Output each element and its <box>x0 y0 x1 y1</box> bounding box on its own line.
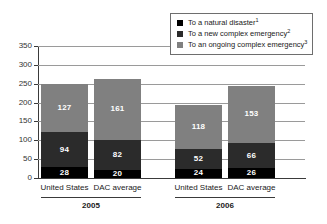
bar-segment: 20 <box>94 170 141 178</box>
bar-segment: 127 <box>41 84 88 132</box>
bar-2006-dac-average: 1536626 <box>228 86 275 178</box>
group-label-2005: 2005 <box>41 201 141 210</box>
legend-swatch-icon <box>177 42 183 48</box>
bar-segment: 66 <box>228 143 275 168</box>
bar-segment: 161 <box>94 79 141 140</box>
y-axis-tick <box>34 65 38 66</box>
legend-item[interactable]: To a natural disaster1 <box>177 18 307 28</box>
bar-segment-value-label: 66 <box>247 152 256 160</box>
legend-swatch-icon <box>177 31 183 37</box>
legend-footnote-marker: 2 <box>287 28 290 34</box>
legend: To a natural disaster1To a new complex e… <box>170 13 313 55</box>
bar-segment-value-label: 24 <box>194 169 203 177</box>
bar-segment-value-label: 94 <box>60 146 69 154</box>
bar-segment-value-label: 26 <box>247 169 256 177</box>
group-separator-rule <box>41 197 141 198</box>
x-axis-line <box>38 178 306 179</box>
y-axis-tick-label: 50 <box>23 155 32 163</box>
y-axis-tick-label: 200 <box>19 99 32 107</box>
legend-swatch-icon <box>177 20 183 26</box>
bar-segment: 153 <box>228 86 275 144</box>
y-axis-tick <box>34 46 38 47</box>
bar-segment-value-label: 20 <box>113 170 122 178</box>
bar-segment-value-label: 118 <box>192 123 206 131</box>
legend-footnote-marker: 3 <box>304 39 307 45</box>
bar-segment-value-label: 127 <box>58 104 72 112</box>
bar-segment: 82 <box>94 140 141 171</box>
bar-segment-value-label: 52 <box>194 155 203 163</box>
bar-segment-value-label: 82 <box>113 151 122 159</box>
bar-2006-united-states: 1185224 <box>175 105 222 178</box>
y-axis-tick <box>34 140 38 141</box>
bar-2005-united-states: 1279428 <box>41 84 88 178</box>
legend-item-label: To a natural disaster1 <box>188 19 259 27</box>
y-axis-tick-label: 350 <box>19 42 32 50</box>
group-label-2006: 2006 <box>175 201 275 210</box>
bar-2005-dac-average: 1618220 <box>94 79 141 178</box>
y-axis-tick <box>34 159 38 160</box>
bar-segment-value-label: 161 <box>111 105 125 113</box>
group-separator-rule <box>175 197 275 198</box>
bar-segment: 52 <box>175 149 222 169</box>
y-axis-tick <box>34 103 38 104</box>
legend-item-label: To an ongoing complex emergency3 <box>188 41 307 49</box>
y-axis-tick-label: 0 <box>28 174 32 182</box>
bar-segment: 24 <box>175 169 222 178</box>
plot-area: 0501001502002503003501279428161822011852… <box>38 46 305 178</box>
bar-segment: 118 <box>175 105 222 150</box>
category-label: DAC average <box>220 183 283 192</box>
y-axis-tick <box>34 178 38 179</box>
bar-segment-value-label: 28 <box>60 169 69 177</box>
y-axis-tick-label: 150 <box>19 117 32 125</box>
y-axis-tick-label: 300 <box>19 61 32 69</box>
y-axis-tick-label: 250 <box>19 80 32 88</box>
bar-segment-value-label: 153 <box>245 110 259 118</box>
gridline <box>38 65 305 66</box>
y-axis-tick-label: 100 <box>19 136 32 144</box>
legend-item[interactable]: To a new complex emergency2 <box>177 29 307 39</box>
legend-item-label: To a new complex emergency2 <box>188 30 290 38</box>
y-axis-tick <box>34 121 38 122</box>
y-axis-tick <box>34 84 38 85</box>
stacked-bar-chart: 0501001502002503003501279428161822011852… <box>0 0 327 224</box>
bar-segment: 26 <box>228 168 275 178</box>
legend-item[interactable]: To an ongoing complex emergency3 <box>177 40 307 50</box>
category-label: DAC average <box>86 183 149 192</box>
bar-segment: 28 <box>41 167 88 178</box>
bar-segment: 94 <box>41 132 88 167</box>
legend-footnote-marker: 1 <box>256 17 259 23</box>
